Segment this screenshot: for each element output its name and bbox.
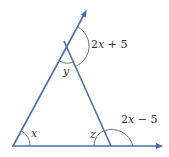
triangle-diagram: x y z 2x + 5 2x − 5: [0, 0, 169, 157]
exterior-right-arc: [104, 129, 133, 146]
angle-x-label: x: [31, 128, 37, 139]
exterior-right-label: 2x − 5: [121, 114, 157, 125]
exterior-top-label: 2x + 5: [91, 39, 127, 50]
right-side-line: [64, 41, 111, 146]
triangle-figure: [0, 0, 169, 157]
left-side-line: [13, 11, 86, 146]
angle-x-arc: [22, 131, 30, 146]
angle-y-arc: [59, 61, 74, 63]
exterior-top-arc: [77, 27, 90, 66]
angle-z-label: z: [90, 129, 96, 140]
angle-y-label: y: [63, 66, 69, 77]
